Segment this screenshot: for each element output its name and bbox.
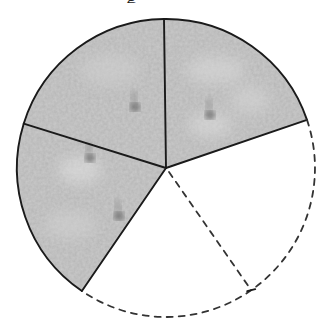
- imaged-region: [0, 0, 325, 320]
- radius-end-tick: [247, 289, 255, 291]
- sector-diagram: [0, 0, 325, 320]
- dashed-radius-line: [169, 172, 251, 290]
